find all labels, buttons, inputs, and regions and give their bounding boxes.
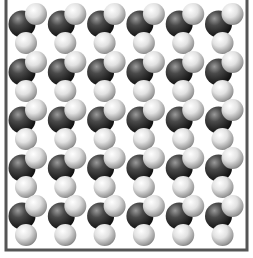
terminal-atom-sphere xyxy=(182,99,204,121)
terminal-atom-sphere xyxy=(64,3,86,25)
terminal-atom-sphere xyxy=(182,51,204,73)
terminal-atom-sphere xyxy=(133,224,155,246)
terminal-atom-sphere xyxy=(54,224,76,246)
terminal-atom-sphere xyxy=(212,128,234,150)
terminal-atom-sphere xyxy=(104,195,126,217)
terminal-atom-sphere xyxy=(54,32,76,54)
terminal-atom-sphere xyxy=(212,32,234,54)
terminal-atom-sphere xyxy=(94,80,116,102)
terminal-atom-sphere xyxy=(94,224,116,246)
terminal-atom-sphere xyxy=(25,195,47,217)
terminal-atom-sphere xyxy=(143,147,165,169)
terminal-atom-sphere xyxy=(182,147,204,169)
terminal-atom-sphere xyxy=(94,128,116,150)
terminal-atom-sphere xyxy=(133,128,155,150)
terminal-atom-sphere xyxy=(212,80,234,102)
terminal-atom-sphere xyxy=(172,176,194,198)
terminal-atom-sphere xyxy=(25,147,47,169)
terminal-atom-sphere xyxy=(182,195,204,217)
terminal-atom-sphere xyxy=(222,51,244,73)
terminal-atom-sphere xyxy=(104,99,126,121)
terminal-atom-sphere xyxy=(64,147,86,169)
terminal-atom-sphere xyxy=(133,176,155,198)
terminal-atom-sphere xyxy=(54,128,76,150)
terminal-atom-sphere xyxy=(64,195,86,217)
terminal-atom-sphere xyxy=(25,51,47,73)
terminal-atom-sphere xyxy=(143,195,165,217)
terminal-atom-sphere xyxy=(104,3,126,25)
terminal-atom-sphere xyxy=(64,51,86,73)
terminal-atom-sphere xyxy=(212,224,234,246)
terminal-atom-sphere xyxy=(222,195,244,217)
terminal-atom-sphere xyxy=(143,99,165,121)
terminal-atom-sphere xyxy=(54,176,76,198)
terminal-atom-sphere xyxy=(64,99,86,121)
terminal-atom-sphere xyxy=(143,51,165,73)
terminal-atom-sphere xyxy=(104,51,126,73)
terminal-atom-sphere xyxy=(25,3,47,25)
terminal-atom-sphere xyxy=(222,147,244,169)
terminal-atom-sphere xyxy=(133,32,155,54)
terminal-atom-sphere xyxy=(15,128,37,150)
terminal-atom-sphere xyxy=(182,3,204,25)
terminal-atom-sphere xyxy=(104,147,126,169)
terminal-atom-sphere xyxy=(94,32,116,54)
terminal-atom-sphere xyxy=(172,128,194,150)
terminal-atom-sphere xyxy=(15,32,37,54)
terminal-atom-sphere xyxy=(222,3,244,25)
terminal-atom-sphere xyxy=(172,80,194,102)
terminal-atom-sphere xyxy=(222,99,244,121)
terminal-atom-sphere xyxy=(94,176,116,198)
terminal-atom-sphere xyxy=(15,224,37,246)
terminal-atom-sphere xyxy=(172,224,194,246)
terminal-atom-sphere xyxy=(25,99,47,121)
terminal-atom-sphere xyxy=(143,3,165,25)
terminal-atom-sphere xyxy=(172,32,194,54)
terminal-atom-sphere xyxy=(54,80,76,102)
terminal-atom-sphere xyxy=(15,176,37,198)
molecular-lattice-diagram xyxy=(0,0,253,258)
terminal-atom-sphere xyxy=(133,80,155,102)
terminal-atom-sphere xyxy=(15,80,37,102)
terminal-atom-sphere xyxy=(212,176,234,198)
